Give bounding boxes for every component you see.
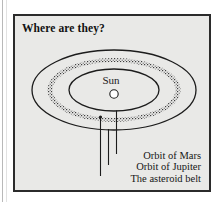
callout-orbit-of-mars: Orbit of Mars (130, 150, 201, 162)
sun-label: Sun (15, 74, 209, 86)
sun-body (110, 90, 118, 98)
leader-dot-asteroid-belt (99, 115, 102, 118)
callout-label-group: Orbit of Mars Orbit of Jupiter The aster… (130, 150, 201, 185)
page-left-rule (2, 0, 3, 202)
figure-panel: Where are they? (13, 14, 211, 192)
page-left-rule-secondary (6, 0, 7, 202)
callout-orbit-of-jupiter: Orbit of Jupiter (130, 161, 201, 173)
callout-asteroid-belt: The asteroid belt (130, 173, 201, 185)
